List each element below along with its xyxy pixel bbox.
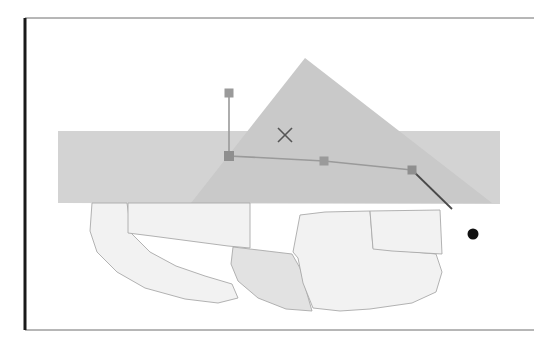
vertex-marker-2[interactable] [224, 151, 234, 161]
vertex-marker-1[interactable] [225, 89, 234, 98]
vertex-marker-4[interactable] [408, 166, 417, 175]
polygon-right-upper-notch [370, 210, 442, 254]
figure-canvas [0, 0, 554, 351]
vertex-marker-3[interactable] [320, 157, 329, 166]
scanned-diagram-page [0, 0, 554, 351]
point-of-interest-dot[interactable] [468, 229, 479, 240]
